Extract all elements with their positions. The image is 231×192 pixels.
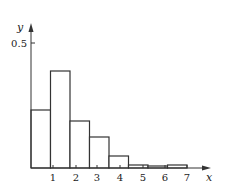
x-tick-label: 6 [162,172,168,183]
histogram-bar [51,71,71,168]
histogram-bars [31,71,187,168]
y-axis-arrow-icon [29,23,34,32]
x-axis-label: x [206,171,213,184]
x-tick-label: 1 [50,172,56,183]
histogram-bar [70,121,90,168]
x-tick-label: 3 [94,172,100,183]
histogram-bar [31,110,51,168]
x-tick-label: 2 [73,172,79,183]
histogram-chart: 1234567 0.5 x y [0,0,231,192]
x-tick-label: 5 [140,172,146,183]
x-axis-arrow-icon [202,166,211,171]
y-axis-label: y [16,21,24,34]
histogram-bar [90,137,110,168]
y-tick-label: 0.5 [11,38,27,49]
histogram-bar [109,156,129,168]
x-tick-label: 7 [184,172,190,183]
x-tick-label: 4 [117,172,123,183]
